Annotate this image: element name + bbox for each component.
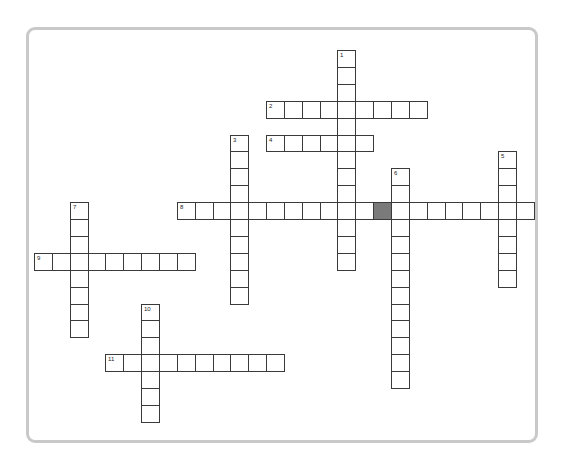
crossword-cell[interactable]: [409, 101, 428, 119]
crossword-cell[interactable]: [230, 168, 249, 186]
crossword-cell[interactable]: [320, 135, 338, 152]
crossword-cell[interactable]: [337, 219, 356, 237]
crossword-cell[interactable]: [230, 151, 249, 169]
crossword-cell[interactable]: [70, 320, 89, 338]
crossword-cell[interactable]: [391, 354, 410, 372]
crossword-cell[interactable]: [337, 84, 356, 102]
crossword-cell[interactable]: [462, 202, 481, 220]
crossword-cell[interactable]: [302, 101, 321, 119]
crossword-cell[interactable]: [391, 320, 410, 338]
crossword-cell[interactable]: [498, 168, 517, 186]
crossword-cell[interactable]: [123, 354, 142, 372]
crossword-cell[interactable]: [105, 253, 124, 271]
crossword-cell[interactable]: [427, 202, 446, 220]
crossword-cell[interactable]: [445, 202, 463, 220]
crossword-cell[interactable]: [70, 287, 89, 305]
crossword-cell[interactable]: [141, 354, 160, 372]
crossword-cell[interactable]: 8: [177, 202, 196, 220]
crossword-cell[interactable]: [337, 185, 356, 203]
crossword-cell[interactable]: [337, 151, 356, 169]
crossword-cell[interactable]: [409, 202, 428, 220]
crossword-cell[interactable]: [123, 253, 142, 271]
crossword-cell[interactable]: [284, 101, 303, 119]
crossword-cell[interactable]: [52, 253, 71, 271]
crossword-cell[interactable]: [284, 135, 303, 152]
crossword-cell[interactable]: [337, 135, 356, 152]
crossword-cell[interactable]: [498, 219, 517, 237]
crossword-cell[interactable]: [337, 168, 356, 186]
crossword-cell[interactable]: [141, 253, 160, 271]
crossword-cell[interactable]: [284, 202, 303, 220]
crossword-cell[interactable]: 7: [70, 202, 89, 220]
crossword-cell[interactable]: [70, 304, 89, 321]
crossword-cell[interactable]: [391, 202, 410, 220]
crossword-cell[interactable]: [498, 253, 517, 271]
crossword-cell[interactable]: [230, 354, 249, 372]
crossword-cell[interactable]: [230, 202, 249, 220]
crossword-cell[interactable]: [141, 371, 160, 389]
crossword-cell[interactable]: [159, 354, 178, 372]
crossword-cell[interactable]: [88, 253, 106, 271]
crossword-cell[interactable]: [498, 236, 517, 254]
crossword-cell[interactable]: 1: [337, 50, 356, 68]
crossword-cell[interactable]: 6: [391, 168, 410, 186]
crossword-cell[interactable]: [391, 287, 410, 305]
crossword-cell[interactable]: [248, 202, 267, 220]
crossword-cell[interactable]: [391, 270, 410, 288]
crossword-cell[interactable]: [302, 202, 321, 220]
crossword-cell[interactable]: [266, 354, 285, 372]
crossword-cell[interactable]: [391, 185, 410, 203]
crossword-cell[interactable]: [480, 202, 499, 220]
crossword-cell[interactable]: [337, 101, 356, 119]
crossword-cell[interactable]: [355, 101, 374, 119]
crossword-cell[interactable]: [230, 236, 249, 254]
crossword-cell[interactable]: [70, 219, 89, 237]
crossword-cell[interactable]: [230, 219, 249, 237]
crossword-cell[interactable]: [498, 202, 517, 220]
crossword-cell[interactable]: [355, 202, 374, 220]
crossword-cell[interactable]: [230, 253, 249, 271]
crossword-cell[interactable]: [230, 185, 249, 203]
crossword-cell[interactable]: 5: [498, 151, 517, 169]
crossword-cell[interactable]: [159, 253, 178, 271]
crossword-cell[interactable]: [391, 253, 410, 271]
crossword-cell[interactable]: 9: [34, 253, 53, 271]
crossword-cell[interactable]: [230, 270, 249, 288]
crossword-cell[interactable]: [141, 320, 160, 338]
crossword-cell[interactable]: [248, 354, 267, 372]
crossword-cell[interactable]: [141, 405, 160, 423]
crossword-cell[interactable]: [195, 354, 214, 372]
crossword-cell[interactable]: [498, 270, 517, 288]
crossword-cell[interactable]: [141, 337, 160, 355]
crossword-cell[interactable]: [266, 202, 285, 220]
crossword-cell[interactable]: [302, 135, 321, 152]
crossword-cell[interactable]: [355, 135, 374, 152]
crossword-cell[interactable]: [391, 236, 410, 254]
crossword-cell[interactable]: [177, 354, 196, 372]
crossword-cell[interactable]: [391, 219, 410, 237]
crossword-cell[interactable]: [516, 202, 535, 220]
crossword-cell[interactable]: 10: [141, 304, 160, 321]
crossword-cell[interactable]: [391, 371, 410, 389]
crossword-cell[interactable]: 2: [266, 101, 285, 119]
crossword-cell[interactable]: [70, 270, 89, 288]
crossword-cell[interactable]: [337, 253, 356, 271]
crossword-cell[interactable]: [337, 202, 356, 220]
crossword-cell[interactable]: [213, 354, 231, 372]
crossword-cell[interactable]: [337, 118, 356, 136]
crossword-cell[interactable]: [213, 202, 231, 220]
crossword-cell[interactable]: [320, 101, 338, 119]
crossword-cell[interactable]: [337, 236, 356, 254]
crossword-cell[interactable]: [230, 287, 249, 305]
crossword-cell[interactable]: 3: [230, 135, 249, 152]
crossword-cell[interactable]: [70, 253, 89, 271]
crossword-cell[interactable]: [320, 202, 338, 220]
crossword-cell[interactable]: [195, 202, 214, 220]
crossword-cell[interactable]: [373, 101, 392, 119]
crossword-cell[interactable]: [141, 388, 160, 406]
crossword-cell[interactable]: 11: [105, 354, 124, 372]
crossword-cell[interactable]: [391, 304, 410, 321]
crossword-cell[interactable]: [498, 185, 517, 203]
crossword-cell[interactable]: [391, 101, 410, 119]
crossword-cell[interactable]: [70, 236, 89, 254]
